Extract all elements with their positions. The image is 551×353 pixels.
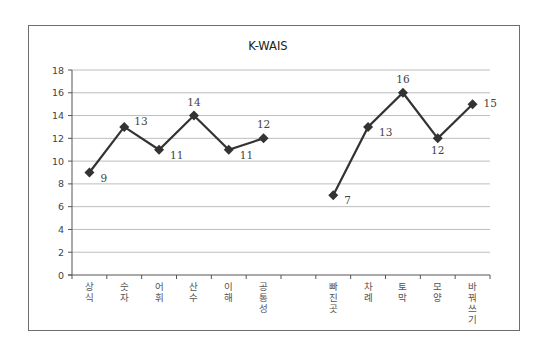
y-tick-label: 6 (58, 201, 64, 212)
y-tick-label: 0 (58, 270, 64, 281)
y-tick-label: 8 (58, 178, 64, 189)
x-category-label: 진 (329, 292, 338, 303)
diamond-marker-icon (328, 190, 338, 200)
axes (68, 70, 490, 279)
x-category-label: 토 (398, 281, 407, 292)
x-category-label: 꿔 (468, 292, 477, 303)
data-label: 15 (484, 97, 497, 109)
x-category-label: 식 (85, 292, 94, 303)
x-category-label: 수 (189, 292, 198, 303)
data-label: 14 (187, 96, 201, 108)
y-axis-tick-labels: 024681012141618 (52, 65, 64, 281)
y-tick-label: 10 (52, 156, 64, 167)
x-category-label: 곳 (329, 303, 338, 314)
x-category-label: 숫 (120, 281, 129, 292)
x-category-label: 자 (120, 292, 129, 303)
line-chart: K-WAIS 024681012141618 상식숫자어휘산수이해공통성빠진곳차… (0, 0, 551, 353)
chart-title: K-WAIS (248, 39, 287, 53)
x-category-label: 산 (189, 281, 198, 292)
y-tick-label: 18 (52, 65, 64, 76)
x-category-label: 차 (364, 281, 373, 292)
diamond-marker-icon (259, 133, 269, 143)
x-category-label: 모 (433, 281, 442, 292)
y-tick-label: 12 (52, 133, 64, 144)
data-label: 13 (134, 115, 147, 127)
x-category-label: 기 (468, 314, 477, 325)
x-category-label: 성 (259, 303, 268, 314)
data-label: 16 (396, 73, 410, 85)
y-tick-label: 4 (58, 224, 64, 235)
gridlines (72, 70, 490, 252)
x-category-label: 상 (85, 281, 94, 292)
data-label: 11 (170, 149, 183, 161)
y-tick-label: 16 (52, 87, 64, 98)
x-category-label: 이 (224, 281, 233, 292)
x-category-label: 빠 (329, 281, 338, 292)
x-category-label: 통 (259, 292, 268, 303)
x-category-label: 례 (364, 292, 373, 303)
y-tick-label: 2 (58, 247, 64, 258)
data-label: 13 (379, 126, 392, 138)
x-category-label: 쓰 (468, 303, 477, 314)
x-category-label: 해 (224, 292, 233, 303)
x-category-label: 휘 (155, 292, 164, 303)
data-label: 9 (100, 172, 107, 184)
series-line (333, 93, 472, 195)
x-axis-category-labels: 상식숫자어휘산수이해공통성빠진곳차례토막모양바꿔쓰기 (85, 281, 477, 325)
data-label: 7 (344, 194, 351, 206)
x-category-label: 어 (155, 281, 164, 292)
data-label: 12 (257, 118, 270, 130)
x-category-label: 양 (433, 292, 442, 303)
x-category-label: 공 (259, 281, 268, 292)
data-label: 12 (431, 144, 444, 156)
x-category-label: 막 (398, 292, 407, 303)
data-label: 11 (240, 149, 253, 161)
y-tick-label: 14 (52, 110, 64, 121)
series-line (89, 116, 263, 173)
x-category-label: 바 (468, 281, 477, 292)
